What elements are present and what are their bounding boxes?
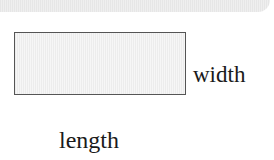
rectangle-shape [14,32,186,95]
top-band [0,0,270,12]
width-label: width [193,63,245,86]
length-label: length [59,128,119,152]
